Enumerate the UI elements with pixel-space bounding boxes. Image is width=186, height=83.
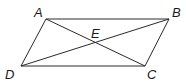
label-a: A <box>33 5 43 20</box>
label-e: E <box>91 26 100 41</box>
label-d: D <box>5 67 14 82</box>
label-c: C <box>147 67 157 82</box>
parallelogram-diagram: A B C D E <box>0 0 186 83</box>
segment-bc <box>145 19 169 66</box>
label-b: B <box>172 5 181 20</box>
